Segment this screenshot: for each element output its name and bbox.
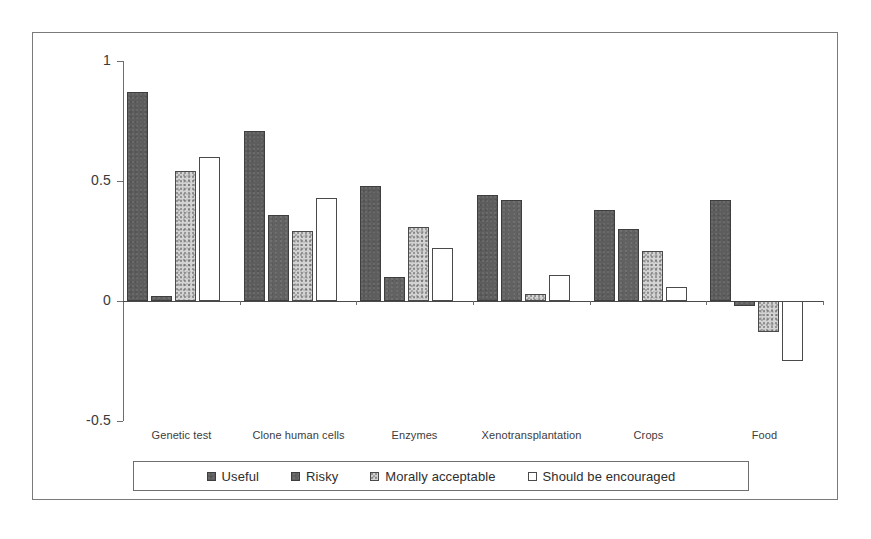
bar-2-5 (758, 301, 779, 332)
chart-legend: UsefulRiskyMorally acceptableShould be e… (133, 461, 749, 491)
y-axis-tick-label: 1 (61, 52, 111, 68)
bar-0-5 (710, 200, 731, 301)
legend-item-label: Risky (306, 469, 338, 484)
bar-0-4 (594, 210, 615, 301)
bar-0-0 (127, 92, 148, 301)
legend-item-encouraged[interactable]: Should be encouraged (528, 469, 676, 484)
x-axis-category-label: Clone human cells (240, 429, 357, 441)
chart-plot-area: 10.50-0.5Genetic testClone human cellsEn… (33, 33, 839, 501)
x-axis-tick-mark (356, 301, 357, 305)
x-axis-tick-mark (706, 301, 707, 305)
bar-2-4 (642, 251, 663, 301)
bar-3-0 (199, 157, 220, 301)
legend-item-morally[interactable]: Morally acceptable (370, 469, 495, 484)
bar-3-3 (549, 275, 570, 301)
chart-frame: 10.50-0.5Genetic testClone human cellsEn… (32, 32, 838, 500)
bar-2-1 (292, 231, 313, 301)
bar-0-3 (477, 195, 498, 301)
bar-2-2 (408, 227, 429, 301)
legend-item-label: Morally acceptable (385, 469, 495, 484)
bar-1-0 (151, 296, 172, 301)
legend-swatch-icon (291, 472, 300, 481)
y-axis-tick-label: 0 (61, 292, 111, 308)
bar-3-4 (666, 287, 687, 301)
y-axis-tick-mark (117, 61, 123, 62)
bar-3-5 (782, 301, 803, 361)
legend-swatch-icon (528, 472, 537, 481)
x-axis-category-label: Genetic test (123, 429, 240, 441)
x-axis-category-label: Crops (590, 429, 707, 441)
bar-1-2 (384, 277, 405, 301)
x-axis-category-label: Xenotransplantation (473, 429, 590, 441)
bar-1-3 (501, 200, 522, 301)
bar-1-1 (268, 215, 289, 301)
x-axis-tick-mark (590, 301, 591, 305)
y-axis-tick-mark (117, 421, 123, 422)
bar-1-4 (618, 229, 639, 301)
legend-item-label: Should be encouraged (543, 469, 676, 484)
x-axis-tick-mark (823, 301, 824, 305)
legend-item-useful[interactable]: Useful (207, 469, 259, 484)
y-axis-tick-mark (117, 181, 123, 182)
x-axis-category-label: Enzymes (356, 429, 473, 441)
legend-item-risky[interactable]: Risky (291, 469, 338, 484)
legend-swatch-icon (207, 472, 216, 481)
y-axis-line (123, 61, 124, 421)
bar-2-3 (525, 294, 546, 301)
bar-1-5 (734, 301, 755, 306)
bar-2-0 (175, 171, 196, 301)
y-axis-tick-label: -0.5 (61, 412, 111, 428)
x-axis-tick-mark (240, 301, 241, 305)
bar-3-1 (316, 198, 337, 301)
x-axis-category-label: Food (706, 429, 823, 441)
bar-3-2 (432, 248, 453, 301)
legend-item-label: Useful (222, 469, 259, 484)
x-axis-tick-mark (473, 301, 474, 305)
bar-0-2 (360, 186, 381, 301)
y-axis-tick-label: 0.5 (61, 172, 111, 188)
legend-swatch-icon (370, 472, 379, 481)
bar-0-1 (244, 131, 265, 301)
